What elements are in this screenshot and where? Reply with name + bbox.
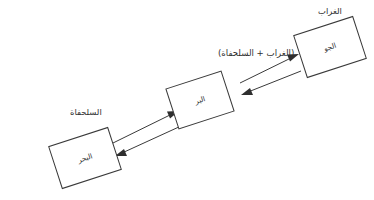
connector-sea-to-land-line [113, 114, 172, 143]
diagram-canvas: الجو البر البحر الغراب السلحفاة (الغراب … [0, 0, 374, 200]
connector-air-to-land [241, 71, 301, 95]
connector-land-to-sea [115, 126, 181, 156]
label-turtle: السلحفاة [70, 107, 102, 117]
diagram-svg: الجو البر البحر الغراب السلحفاة (الغراب … [0, 0, 374, 200]
connector-air-to-land-line [248, 71, 301, 92]
node-sea[interactable]: البحر [49, 127, 122, 188]
node-land[interactable]: البر [166, 71, 234, 129]
label-crow-plus-turtle: (الغراب + السلحفاة) [218, 48, 294, 58]
node-air[interactable]: الجو [294, 16, 367, 77]
connector-land-to-air [240, 54, 299, 83]
label-crow: الغراب [318, 6, 342, 16]
connector-land-to-air-line [240, 57, 293, 83]
connector-air-to-land-arrowhead [241, 88, 253, 95]
connector-land-to-sea-line [122, 126, 181, 153]
connector-sea-to-land [113, 111, 179, 143]
